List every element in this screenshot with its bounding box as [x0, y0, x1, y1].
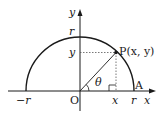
y-axis-arrow-icon [78, 9, 83, 16]
point-a-label: A [134, 79, 144, 92]
point-p [114, 51, 118, 55]
x-tick-r-label: r [131, 94, 137, 107]
x-tick-neg-r-label: −r [16, 94, 31, 107]
x-axis-label: x [144, 94, 151, 107]
y-tick-r-label: r [69, 25, 75, 38]
x-tick-x-label: x [112, 94, 119, 107]
theta-label: θ [95, 76, 102, 89]
semicircle-diagram: y r y P(x, y) θ A −r O x r x [0, 0, 164, 118]
y-tick-y-label: y [68, 46, 76, 59]
angle-arc [86, 84, 89, 91]
y-axis-label: y [68, 6, 76, 19]
origin-label: O [70, 94, 79, 107]
point-p-label: P(x, y) [119, 45, 154, 58]
right-angle-marker [109, 85, 116, 91]
x-axis-arrow-icon [149, 89, 156, 94]
